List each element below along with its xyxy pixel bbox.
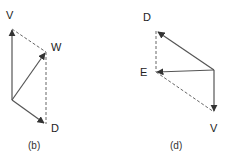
vector-diagram: V W D (b) D E V (d)	[0, 0, 229, 160]
caption-b: (b)	[28, 140, 40, 151]
panel-b: V W D (b)	[6, 9, 62, 151]
vector-e-d	[157, 70, 214, 72]
dashed-e-to-v-d	[156, 72, 214, 112]
label-w-b: W	[51, 41, 62, 53]
label-e-d: E	[140, 66, 147, 78]
dashed-v-to-w-b	[12, 29, 46, 52]
panel-d: D E V (d)	[140, 11, 218, 151]
vector-d-d	[158, 32, 214, 70]
vector-w-b	[12, 53, 45, 100]
label-v-d: V	[210, 122, 218, 134]
label-d-b: D	[51, 122, 59, 134]
label-v-b: V	[6, 9, 14, 21]
caption-d: (d)	[170, 140, 182, 151]
vector-d-b	[12, 100, 44, 123]
label-d-d: D	[143, 11, 151, 23]
